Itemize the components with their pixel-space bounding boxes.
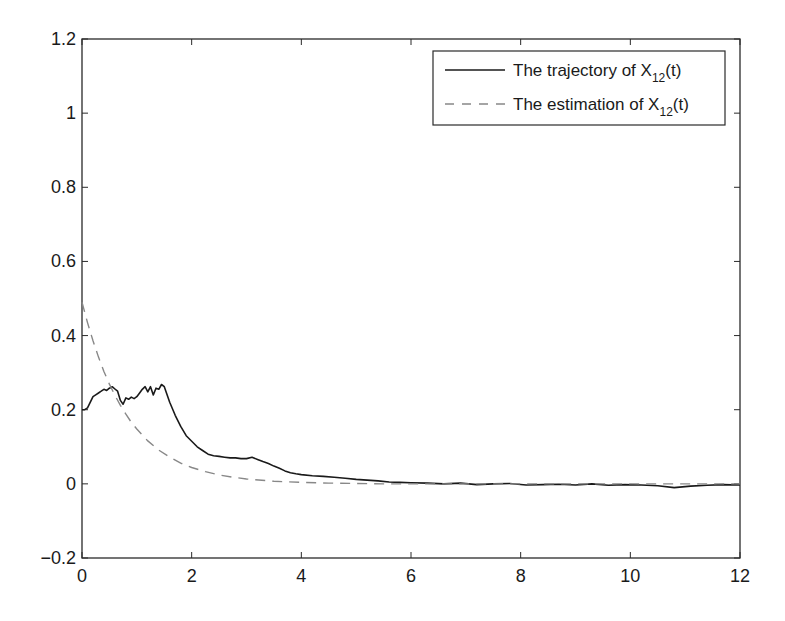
y-tick-label: 1.2 (51, 29, 76, 49)
y-tick-label: 1 (66, 103, 76, 123)
x-tick-label: 10 (620, 566, 640, 586)
y-tick-label: 0.2 (51, 400, 76, 420)
x-tick-label: 8 (516, 566, 526, 586)
legend: The trajectory of X12(t)The estimation o… (433, 51, 725, 125)
y-tick-label: 0 (66, 474, 76, 494)
x-tick-label: 0 (77, 566, 87, 586)
x-tick-label: 2 (187, 566, 197, 586)
x-tick-label: 4 (296, 566, 306, 586)
estimation-line (82, 302, 740, 484)
line-chart: 024681012−0.200.20.40.60.811.2 The traje… (0, 0, 785, 621)
y-tick-label: 0.8 (51, 177, 76, 197)
y-tick-label: 0.6 (51, 251, 76, 271)
series-layer (82, 302, 740, 487)
trajectory-line (82, 385, 740, 488)
y-tick-label: −0.2 (40, 548, 76, 568)
x-tick-label: 6 (406, 566, 416, 586)
x-tick-label: 12 (730, 566, 750, 586)
y-tick-label: 0.4 (51, 326, 76, 346)
